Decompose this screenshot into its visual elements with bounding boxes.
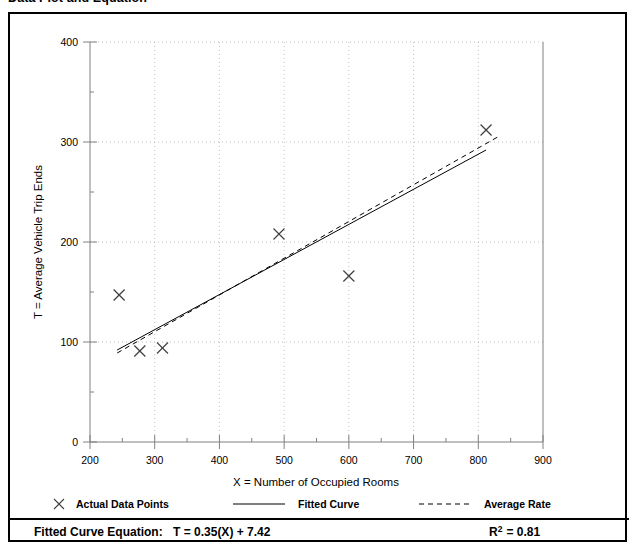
x-tick-label: 700	[405, 454, 423, 466]
legend: Actual Data Points Fitted Curve Average …	[54, 498, 551, 510]
r-squared-annotation: R2= 0.81	[489, 524, 540, 539]
figure-frame: 200300400500600700800900 0100200300400 X…	[8, 12, 627, 542]
x-tick-label: 400	[211, 454, 229, 466]
r-squared-base: R	[489, 525, 498, 539]
chart-plot-area: 200300400500600700800900 0100200300400 X…	[10, 14, 629, 544]
x-tick-label: 500	[275, 454, 293, 466]
data-point-marker	[343, 271, 354, 282]
y-tick-label: 300	[60, 136, 78, 148]
x-tick-label: 600	[340, 454, 358, 466]
r-squared-value: = 0.81	[506, 525, 540, 539]
major-ticks-group	[83, 42, 543, 449]
legend-item-fitted-curve: Fitted Curve	[233, 498, 359, 510]
y-tick-label: 200	[60, 236, 78, 248]
x-marker-icon	[54, 499, 64, 509]
data-point-marker	[157, 343, 168, 354]
series-line-solid	[117, 150, 486, 350]
y-tick-label: 100	[60, 336, 78, 348]
legend-label-fitted-curve: Fitted Curve	[298, 498, 359, 510]
r-squared-exponent: 2	[498, 524, 503, 534]
data-point-marker	[134, 346, 145, 357]
y-axis-title: T = Average Vehicle Trip Ends	[32, 165, 44, 319]
legend-label-average-rate: Average Rate	[484, 498, 551, 510]
footer: Fitted Curve Equation: T = 0.35(X) + 7.4…	[34, 524, 540, 539]
equation-value-text: T = 0.35(X) + 7.42	[173, 525, 271, 539]
x-tick-labels-group: 200300400500600700800900	[81, 454, 552, 466]
series-line-dashed	[117, 137, 498, 353]
scatter-chart-svg: 200300400500600700800900 0100200300400 X…	[10, 14, 629, 544]
y-tick-label: 0	[72, 436, 78, 448]
data-point-marker	[481, 125, 492, 136]
page-title: Data Plot and Equation	[8, 0, 147, 5]
x-tick-label: 800	[470, 454, 488, 466]
x-axis-title: X = Number of Occupied Rooms	[233, 476, 399, 488]
minor-ticks-group	[90, 92, 511, 442]
x-tick-label: 300	[146, 454, 164, 466]
equation-label-text: Fitted Curve Equation:	[34, 525, 163, 539]
legend-item-average-rate: Average Rate	[419, 498, 551, 510]
legend-label-actual-points: Actual Data Points	[76, 498, 169, 510]
series-lines-group	[117, 137, 498, 353]
x-tick-label: 900	[534, 454, 552, 466]
y-tick-labels-group: 0100200300400	[60, 36, 78, 448]
equation-label: Fitted Curve Equation: T = 0.35(X) + 7.4…	[34, 525, 271, 539]
legend-item-actual-points: Actual Data Points	[54, 498, 169, 510]
data-point-marker	[114, 290, 125, 301]
x-tick-label: 200	[81, 454, 99, 466]
y-tick-label: 400	[60, 36, 78, 48]
data-point-marker	[273, 229, 284, 240]
